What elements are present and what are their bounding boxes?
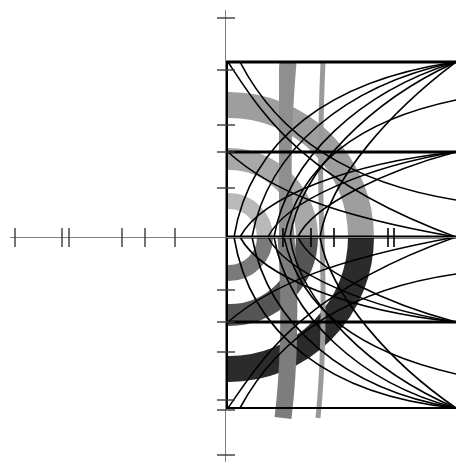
vertical-band-lower-1 (283, 237, 289, 418)
vertical-band-upper-1 (283, 62, 288, 237)
plot-svg (0, 0, 456, 469)
figure-canvas (0, 0, 456, 469)
